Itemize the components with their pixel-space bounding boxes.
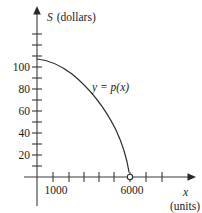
y-tick-label-80: 80 [19, 83, 31, 95]
y-tick-label-20: 20 [19, 149, 31, 161]
x-axis-title: x [182, 186, 189, 198]
y-tick-label-100: 100 [13, 61, 31, 73]
curve-label: y = p(x) [91, 81, 129, 94]
graph-figure: 100 80 60 40 20 1000 6000 S(dollars) x (… [0, 0, 202, 213]
y-tick-label-40: 40 [19, 127, 31, 139]
y-tick-label-60: 60 [19, 105, 31, 117]
x-tick-label-1000: 1000 [45, 184, 68, 196]
open-endpoint-marker [127, 174, 132, 179]
x-tick-label-6000: 6000 [121, 184, 144, 196]
y-axis-arrow-icon [33, 6, 41, 15]
y-axis-symbol: S [47, 11, 53, 23]
y-axis-units: (dollars) [57, 11, 96, 24]
x-axis-units: (units) [170, 200, 200, 213]
plot-svg: 100 80 60 40 20 1000 6000 S(dollars) x (… [0, 0, 202, 213]
curve-path [37, 59, 129, 172]
y-axis-title: S(dollars) [47, 11, 96, 24]
x-axis-arrow-icon [188, 173, 197, 181]
